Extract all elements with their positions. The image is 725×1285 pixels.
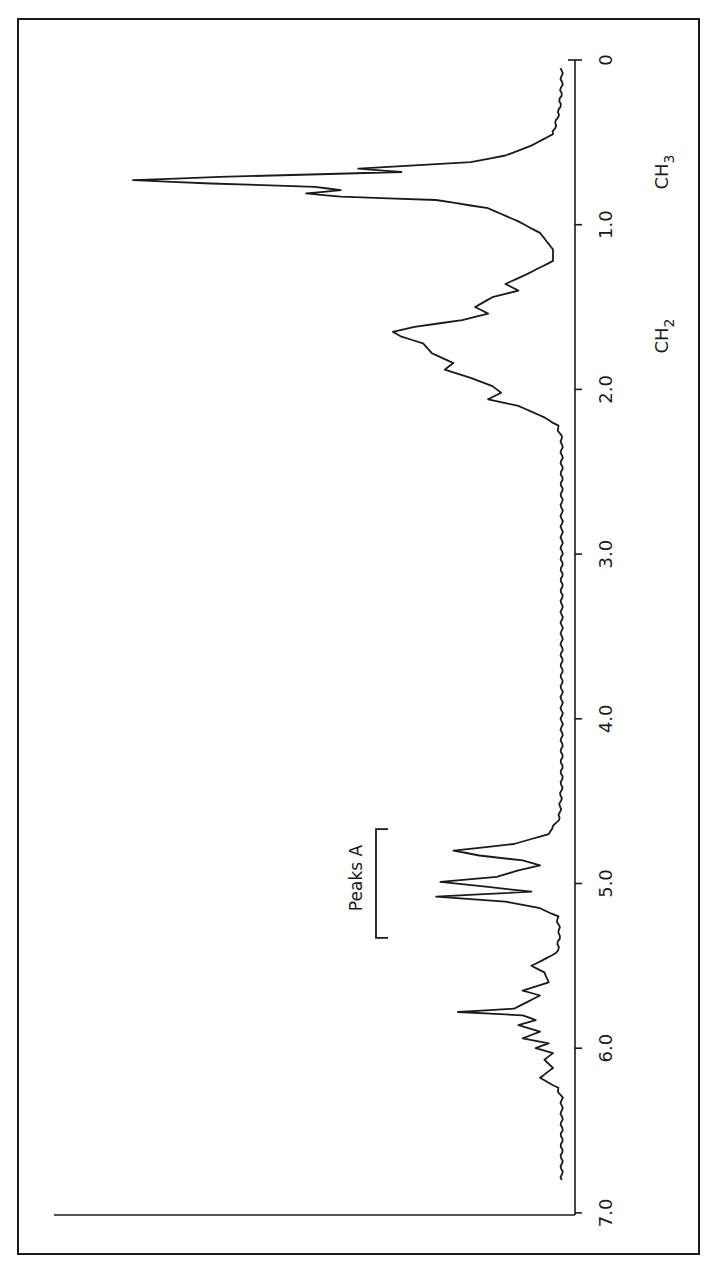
ch2-subscript: 2: [661, 318, 677, 327]
ch2-label: CH2: [651, 318, 677, 353]
ppm-tick-label: 5.0: [595, 869, 616, 898]
ch3-main: CH: [651, 163, 672, 189]
ppm-tick-label: 3.0: [595, 540, 616, 569]
ppm-tick-label: 4.0: [595, 704, 616, 733]
ppm-tick-label: 7.0: [595, 1199, 616, 1228]
ppm-axis-ticks: 01.02.03.04.05.06.07.0: [575, 54, 616, 1227]
svg-text:CH3: CH3: [651, 154, 677, 189]
outer-frame: [18, 19, 699, 1254]
spectrum-trace: [133, 68, 563, 1180]
ppm-tick-label: 0: [595, 54, 616, 65]
svg-text:CH2: CH2: [651, 318, 677, 353]
ch2-main: CH: [651, 327, 672, 353]
peaks-a-bracket: [376, 829, 388, 938]
peaks-a-label: Peaks A: [346, 845, 366, 912]
ch3-label: CH3: [651, 154, 677, 189]
ppm-tick-label: 1.0: [595, 210, 616, 239]
nmr-spectrum-chart: 01.02.03.04.05.06.07.0 Peaks A CH3 CH2: [0, 0, 725, 1285]
ppm-tick-label: 2.0: [595, 375, 616, 404]
ppm-tick-label: 6.0: [595, 1034, 616, 1063]
ch3-subscript: 3: [661, 154, 677, 163]
